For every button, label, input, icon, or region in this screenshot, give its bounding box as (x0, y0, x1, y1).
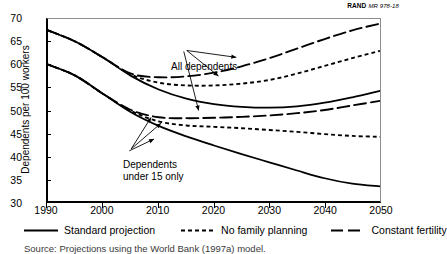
rand-publisher-label: RAND (347, 2, 366, 9)
y-tick-mark-55 (46, 87, 51, 88)
annotation-under-15-line2: under 15 only (123, 171, 184, 182)
legend-swatch-solid (24, 226, 58, 235)
y-tick-label-65: 65 (0, 36, 22, 47)
y-tick-label-30: 30 (0, 198, 22, 209)
legend-label: No family planning (221, 224, 307, 236)
x-tick-label-2050: 2050 (358, 205, 404, 216)
legend-label: Standard projection (64, 224, 155, 236)
y-tick-label-55: 55 (0, 82, 22, 93)
legend-item-no-family-planning[interactable]: No family planning (181, 224, 307, 236)
x-tick-mark-2030 (269, 203, 270, 208)
rand-document-number: MR 978-18 (368, 3, 399, 9)
y-tick-label-40: 40 (0, 152, 22, 163)
y-tick-mark-65 (46, 41, 51, 42)
x-tick-mark-2020 (214, 203, 215, 208)
annotation-under-15-only: Dependents under 15 only (123, 159, 184, 182)
leader-under15-no-family-planning (131, 123, 161, 149)
annotation-under-15-line1: Dependents (123, 159, 177, 170)
chart-legend: Standard projectionNo family planningCon… (24, 222, 400, 238)
series-line-all-dependents-no-family-planning (48, 30, 380, 85)
legend-item-constant-fertility[interactable]: Constant fertility (331, 224, 446, 236)
rand-credit: RANDMR 978-18 (347, 2, 399, 9)
y-tick-label-45: 45 (0, 128, 22, 139)
y-tick-label-35: 35 (0, 175, 22, 186)
annotation-all-dependents: All dependents (171, 61, 237, 73)
y-tick-label-60: 60 (0, 59, 22, 70)
x-tick-mark-2000 (102, 203, 103, 208)
x-tick-mark-2040 (325, 203, 326, 208)
y-tick-label-50: 50 (0, 105, 22, 116)
y-tick-mark-40 (46, 157, 51, 158)
x-tick-mark-2010 (158, 203, 159, 208)
leader-all-dependents-constant-fertility (187, 50, 237, 58)
leader-under15-standard-projection (129, 139, 154, 151)
plot-area: All dependents Dependents under 15 only (46, 18, 381, 203)
curves-svg (48, 19, 380, 201)
series-line-dependents-under-15-only-no-family-planning (48, 65, 380, 137)
legend-swatch-long-dash (331, 226, 365, 235)
leader-under15-constant-fertility (131, 117, 151, 148)
y-tick-mark-35 (46, 180, 51, 181)
y-tick-mark-60 (46, 64, 51, 65)
x-tick-mark-1990 (46, 203, 47, 208)
series-line-dependents-under-15-only-standard-projection (48, 65, 380, 187)
y-tick-mark-50 (46, 111, 51, 112)
y-tick-label-70: 70 (0, 13, 22, 24)
legend-item-standard-projection[interactable]: Standard projection (24, 224, 155, 236)
y-tick-mark-45 (46, 134, 51, 135)
legend-swatch-dotted (181, 226, 215, 235)
legend-label: Constant fertility (371, 224, 446, 236)
source-note: Source: Projections using the World Bank… (24, 243, 266, 254)
